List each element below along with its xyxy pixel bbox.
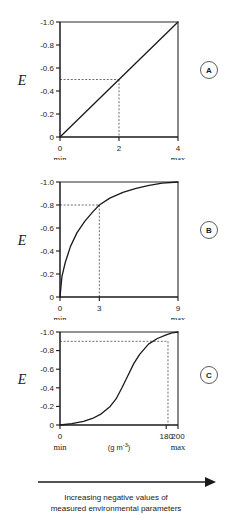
chart-panel-b: 0-0.2-0.4-0.6-0.8-1.00min39maxEB [0, 160, 233, 320]
x-tick-label: 4 [176, 144, 181, 153]
chart-svg-b: 0-0.2-0.4-0.6-0.8-1.00min39maxEB [0, 160, 233, 320]
y-tick-label: -0.2 [40, 402, 54, 411]
x-tick-label: 2 [117, 144, 122, 153]
plot-area-a: 0-0.2-0.4-0.6-0.8-1.00min24maxEA [17, 18, 218, 160]
panel-badge-label-b: B [206, 226, 212, 235]
chart-svg-a: 0-0.2-0.4-0.6-0.8-1.00min24maxEA [0, 0, 233, 160]
x-axis-units-label: (g m-3) [108, 442, 131, 452]
y-tick-label: -1.0 [40, 328, 54, 337]
x-tick-label: 9 [176, 304, 181, 313]
x-tick-sublabel: min [53, 442, 67, 452]
chart-panel-c: 0-0.2-0.4-0.6-0.8-1.00min180200max(g m-3… [0, 320, 233, 455]
x-tick-label: 0 [58, 432, 63, 441]
x-tick-label: 0 [58, 144, 63, 153]
y-tick-label: -0.4 [40, 87, 54, 96]
y-tick-label: -0.2 [40, 270, 54, 279]
y-tick-label: -0.6 [40, 365, 54, 374]
plot-frame [60, 182, 178, 297]
y-axis-title: E [17, 372, 27, 387]
figure-footer: Increasing negative values of measured e… [0, 455, 233, 515]
x-tick-label: 0 [58, 304, 63, 313]
x-tick-sublabel: max [171, 442, 186, 452]
y-axis-title: E [17, 233, 27, 248]
direction-arrow [38, 477, 216, 487]
y-tick-label: -0.2 [40, 110, 54, 119]
y-axis-title: E [17, 73, 27, 88]
right-arrow-icon [205, 477, 216, 487]
y-tick-label: -0.6 [40, 224, 54, 233]
chart-svg-c: 0-0.2-0.4-0.6-0.8-1.00min180200max(g m-3… [0, 320, 233, 455]
y-tick-label: -0.8 [40, 201, 54, 210]
plot-area-b: 0-0.2-0.4-0.6-0.8-1.00min39maxEB [17, 178, 218, 320]
y-tick-label: -0.6 [40, 64, 54, 73]
y-tick-label: -1.0 [40, 18, 54, 27]
y-tick-label: -0.8 [40, 346, 54, 355]
footer-svg: Increasing negative values of measured e… [0, 455, 233, 515]
caption-line-2: measured environmental parameters [51, 504, 182, 513]
plot-area-c: 0-0.2-0.4-0.6-0.8-1.00min180200max(g m-3… [17, 328, 218, 452]
panel-badge-label-c: C [206, 371, 212, 380]
y-tick-label: -0.8 [40, 41, 54, 50]
data-curve-c [60, 332, 178, 425]
y-tick-label: 0 [50, 293, 55, 302]
y-tick-label: 0 [50, 421, 55, 430]
chart-panel-a: 0-0.2-0.4-0.6-0.8-1.00min24maxEA [0, 0, 233, 160]
panel-badge-label-a: A [206, 66, 212, 75]
y-tick-label: -0.4 [40, 384, 54, 393]
y-tick-label: -0.4 [40, 247, 54, 256]
caption-line-1: Increasing negative values of [64, 493, 168, 502]
x-tick-label: 200 [171, 432, 185, 441]
environmental-response-figure: 0-0.2-0.4-0.6-0.8-1.00min24maxEA 0-0.2-0… [0, 0, 233, 515]
data-curve-b [60, 182, 178, 297]
plot-frame [60, 332, 178, 425]
y-tick-label: 0 [50, 133, 55, 142]
y-tick-label: -1.0 [40, 178, 54, 187]
x-tick-label: 3 [97, 304, 102, 313]
